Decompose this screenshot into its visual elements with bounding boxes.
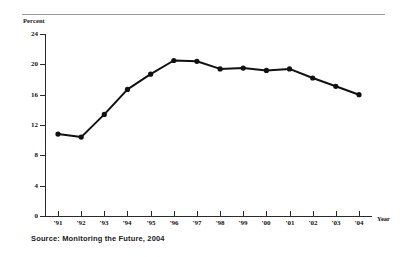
data-point <box>310 75 315 80</box>
data-point <box>241 66 246 71</box>
data-point <box>102 112 107 117</box>
data-point <box>287 66 292 71</box>
source-note: Source: Monitoring the Future, 2004 <box>31 234 165 243</box>
data-point <box>125 87 130 92</box>
data-point <box>55 132 60 137</box>
data-series-plot <box>0 0 404 257</box>
data-point <box>194 59 199 64</box>
data-point <box>171 58 176 63</box>
data-point <box>333 84 338 89</box>
series-line <box>58 61 359 138</box>
series-markers <box>55 58 361 140</box>
data-point <box>264 68 269 73</box>
data-point <box>218 66 223 71</box>
data-point <box>148 72 153 77</box>
data-point <box>356 92 361 97</box>
data-point <box>79 135 84 140</box>
figure-container: Percent 04812162024 '91'92'93'94'95'96'9… <box>0 0 404 257</box>
